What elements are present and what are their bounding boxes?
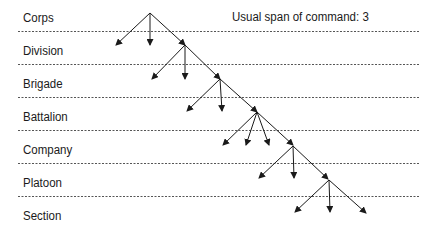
level-label-company: Company [23, 143, 72, 157]
level-label-battalion: Battalion [23, 110, 68, 124]
arrow-icon [187, 79, 220, 111]
arrow-icon [220, 79, 222, 111]
arrow-icon [185, 45, 220, 79]
arrow-icon [257, 112, 293, 145]
arrow-icon [152, 45, 185, 79]
arrow-icon [116, 13, 150, 45]
level-label-corps: Corps [23, 11, 54, 25]
arrow-icon [329, 180, 330, 212]
command-arrows [116, 13, 366, 213]
arrow-icon [259, 146, 293, 178]
span-of-command-note: Usual span of command: 3 [232, 10, 369, 24]
level-label-brigade: Brigade [23, 77, 63, 91]
arrow-icon [293, 146, 328, 179]
arrow-icon [150, 13, 185, 45]
arrow-icon [220, 79, 257, 112]
arrow-icon [293, 146, 294, 178]
level-separators [18, 32, 419, 197]
level-label-division: Division [23, 44, 63, 58]
level-label-section: Section [23, 209, 61, 223]
level-label-platoon: Platoon [23, 176, 62, 190]
